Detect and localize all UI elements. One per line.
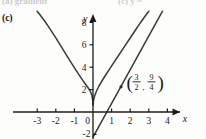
y-axis-label: y — [82, 13, 88, 24]
x-tick-label--1: -1 — [70, 116, 78, 126]
annotation-y-denominator: 4 — [150, 83, 154, 92]
x-axis-arrow — [173, 109, 181, 116]
graph-figure: -3 -2 -1 1 2 3 4 8 6 4 2 -2 0 y x ( 3 2 … — [0, 0, 206, 139]
annotation-x-numerator: 3 — [135, 73, 139, 82]
y-axis-arrow — [90, 14, 97, 22]
y-tick-label-6: 6 — [82, 40, 87, 50]
tangency-point-marker — [119, 85, 122, 88]
x-tick-label--2: -2 — [52, 116, 60, 126]
annotation-comma: , — [143, 83, 145, 92]
tangency-point-annotation: ( 3 2 , 9 4 ) — [127, 72, 164, 94]
x-axis-label: x — [182, 113, 188, 124]
x-tick-label-4: 4 — [165, 116, 170, 126]
annotation-y-numerator: 9 — [150, 73, 154, 82]
x-tick-label-1: 1 — [109, 116, 114, 126]
annotation-x-denominator: 2 — [135, 83, 139, 92]
annotation-open-paren: ( — [127, 72, 133, 94]
origin-label: 0 — [85, 116, 90, 126]
x-tick-label-2: 2 — [128, 116, 133, 126]
x-tick-label-3: 3 — [146, 116, 151, 126]
y-tick-label--2: -2 — [83, 129, 91, 139]
annotation-close-paren: ) — [158, 72, 164, 94]
x-tick-label--3: -3 — [33, 116, 41, 126]
y-tick-label-4: 4 — [82, 63, 87, 73]
y-tick-label-2: 2 — [82, 85, 87, 95]
